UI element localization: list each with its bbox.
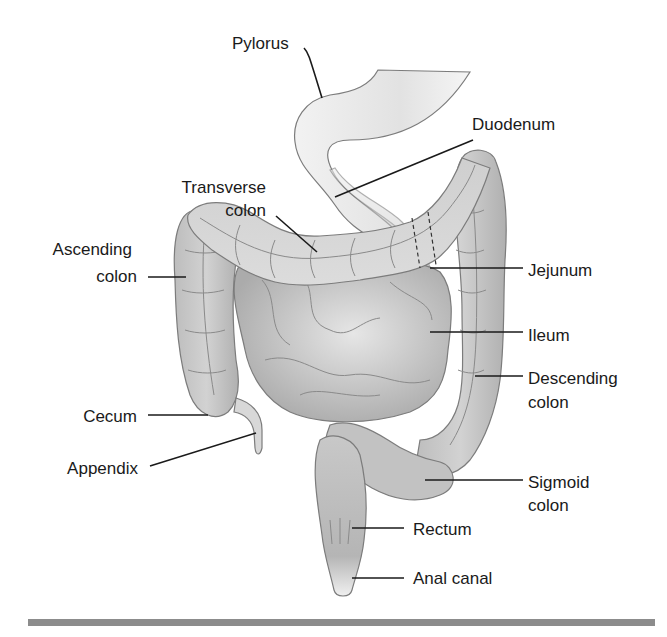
label-cecum: Cecum [83,407,137,426]
label-appendix: Appendix [67,459,138,478]
appendix-shape [234,398,262,454]
label-sigmoid-colon-line2: colon [528,496,569,515]
label-ileum: Ileum [528,326,570,345]
label-ascending-colon-line2: colon [96,267,137,286]
leader-pylorus [304,48,322,98]
label-sigmoid-colon-line1: Sigmoid [528,473,589,492]
intestine-diagram: Pylorus Duodenum Transverse colon Ascend… [0,0,667,637]
label-ascending-colon-line1: Ascending [53,240,132,259]
label-pylorus: Pylorus [232,34,289,53]
label-transverse-colon-line1: Transverse [182,178,266,197]
label-anal-canal: Anal canal [413,569,492,588]
bottom-rule [28,619,655,626]
leader-appendix [150,433,256,466]
label-duodenum: Duodenum [472,115,555,134]
label-descending-colon-line1: Descending [528,369,618,388]
label-transverse-colon-line2: colon [225,201,266,220]
small-intestine-shape [234,261,451,422]
rectum-shape [315,436,366,596]
label-rectum: Rectum [413,520,472,539]
label-jejunum: Jejunum [528,261,592,280]
label-descending-colon-line2: colon [528,393,569,412]
